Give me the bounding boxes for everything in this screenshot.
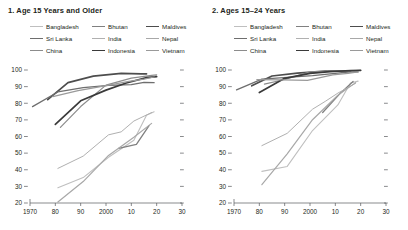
y-axis-tick-label: 30 [219, 183, 227, 190]
y-axis-tick-label: 80 [219, 100, 227, 107]
x-axis-line [234, 199, 386, 203]
y-axis-tick-label: 90 [15, 83, 23, 90]
two-panel-literacy-figure: 1. Age 15 Years and Older BangladeshBhut… [0, 0, 408, 230]
legend-item-label: Bangladesh [250, 24, 283, 30]
y-axis-tick-label: 90 [219, 83, 227, 90]
legend-line-swatch-icon [234, 38, 247, 39]
page-title: 1. Age 15 Years and Older [8, 6, 102, 15]
legend-item-maldives[interactable]: Maldives [146, 24, 200, 30]
legend-line-swatch-icon [92, 26, 105, 27]
y-axis-tick-label: 60 [219, 133, 227, 140]
legend-item-indonesia[interactable]: Indonesia [92, 48, 146, 54]
legend-item-label: Vietnam [162, 48, 185, 54]
legend-item-nepal[interactable]: Nepal [146, 36, 200, 42]
legend-item-vietnam[interactable]: Vietnam [350, 48, 404, 54]
y-axis-tick-label: 60 [15, 133, 23, 140]
legend-item-bangladesh[interactable]: Bangladesh [234, 24, 296, 30]
line-chart-panel-2: 2030405060708090100197080902000102030 [204, 62, 408, 222]
x-axis-tick-label: 90 [77, 208, 85, 215]
x-axis-tick-label: 10 [332, 208, 340, 215]
x-axis-tick-label: 10 [128, 208, 136, 215]
legend-line-swatch-icon [146, 26, 159, 27]
legend-item-label: Nepal [162, 36, 178, 42]
legend-line-swatch-icon [92, 38, 105, 39]
legend-item-label: Sri Lanka [46, 36, 72, 42]
x-axis-tick-label: 80 [256, 208, 264, 215]
legend-item-label: Maldives [162, 24, 186, 30]
x-axis-tick-label: 30 [178, 208, 186, 215]
x-axis-tick-label: 2000 [99, 208, 114, 215]
legend-item-label: Indonesia [312, 48, 339, 54]
series-line-bhutan [323, 81, 353, 112]
legend-item-sri-lanka[interactable]: Sri Lanka [234, 36, 296, 42]
y-axis-tick-label: 20 [219, 199, 227, 206]
panel-ages-15-24: 2. Ages 15–24 Years BangladeshBhutanMald… [204, 0, 408, 230]
series-line-bangladesh [262, 81, 358, 171]
series-line-nepal [58, 123, 152, 202]
legend-item-label: China [46, 48, 62, 54]
y-axis-tick-label: 70 [219, 116, 227, 123]
legend-item-india[interactable]: India [296, 36, 350, 42]
legend-line-swatch-icon [146, 50, 159, 51]
legend-line-swatch-icon [234, 50, 247, 51]
legend-item-label: Indonesia [108, 48, 135, 54]
y-axis-tick-label: 50 [15, 149, 23, 156]
series-line-bangladesh [58, 112, 154, 188]
y-axis-tick-label: 30 [15, 183, 23, 190]
legend-item-china[interactable]: China [234, 48, 296, 54]
legend-item-label: India [312, 36, 325, 42]
y-axis-tick-label: 40 [15, 166, 23, 173]
legend-item-sri-lanka[interactable]: Sri Lanka [30, 36, 92, 42]
legend-item-bhutan[interactable]: Bhutan [296, 24, 350, 30]
y-axis-tick-label: 100 [215, 66, 226, 73]
legend-line-swatch-icon [296, 26, 309, 27]
x-axis-tick-label: 1970 [23, 208, 38, 215]
legend-item-india[interactable]: India [92, 36, 146, 42]
legend-panel-2: BangladeshBhutanMaldivesSri LankaIndiaNe… [234, 21, 404, 57]
y-axis-tick-label: 100 [11, 66, 22, 73]
legend-item-label: China [250, 48, 266, 54]
line-chart-panel-1: 2030405060708090100197080902000102030 [0, 62, 204, 222]
legend-line-swatch-icon [296, 38, 309, 39]
x-axis-tick-label: 20 [153, 208, 161, 215]
legend-item-label: Bhutan [312, 24, 332, 30]
legend-line-swatch-icon [30, 38, 43, 39]
legend-item-label: Bangladesh [46, 24, 79, 30]
x-axis-tick-label: 80 [52, 208, 60, 215]
legend-line-swatch-icon [92, 50, 105, 51]
y-axis-tick-label: 20 [15, 199, 23, 206]
legend-item-label: Vietnam [366, 48, 389, 54]
legend-line-swatch-icon [234, 26, 247, 27]
legend-line-swatch-icon [146, 38, 159, 39]
legend-item-maldives[interactable]: Maldives [350, 24, 404, 30]
panel-age-15-and-older: 1. Age 15 Years and Older BangladeshBhut… [0, 0, 204, 230]
legend-line-swatch-icon [350, 26, 363, 27]
x-axis-tick-label: 30 [382, 208, 390, 215]
legend-item-bangladesh[interactable]: Bangladesh [30, 24, 92, 30]
legend-item-label: Bhutan [108, 24, 128, 30]
legend-item-nepal[interactable]: Nepal [350, 36, 404, 42]
legend-line-swatch-icon [30, 26, 43, 27]
x-axis-tick-label: 20 [357, 208, 365, 215]
legend-line-swatch-icon [350, 38, 363, 39]
plot-area-panel-2: 2030405060708090100197080902000102030 [204, 62, 408, 222]
plot-area-panel-1: 2030405060708090100197080902000102030 [0, 62, 204, 222]
legend-panel-1: BangladeshBhutanMaldivesSri LankaIndiaNe… [30, 21, 200, 57]
series-line-sri-lanka [33, 82, 155, 106]
x-axis-tick-label: 90 [281, 208, 289, 215]
x-axis-line [30, 199, 182, 203]
x-axis-tick-label: 2000 [303, 208, 318, 215]
legend-item-china[interactable]: China [30, 48, 92, 54]
y-axis-tick-label: 80 [15, 100, 23, 107]
legend-item-label: Sri Lanka [250, 36, 276, 42]
y-axis-tick-label: 40 [219, 166, 227, 173]
legend-item-bhutan[interactable]: Bhutan [92, 24, 146, 30]
legend-item-label: Nepal [366, 36, 382, 42]
legend-item-vietnam[interactable]: Vietnam [146, 48, 200, 54]
legend-line-swatch-icon [30, 50, 43, 51]
y-axis-tick-label: 70 [15, 116, 23, 123]
legend-item-indonesia[interactable]: Indonesia [296, 48, 350, 54]
legend-item-label: India [108, 36, 121, 42]
x-axis-tick-label: 1970 [227, 208, 242, 215]
legend-line-swatch-icon [296, 50, 309, 51]
